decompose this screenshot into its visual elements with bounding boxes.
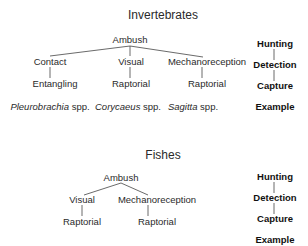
fishes-level-hunting: Hunting	[257, 172, 293, 182]
invertebrates-capture-raptorial-visual: Raptorial	[112, 79, 150, 89]
fishes-hunting-node: Ambush	[104, 173, 139, 183]
invertebrates-capture-raptorial-mechano: Raptorial	[188, 79, 226, 89]
invertebrates-level-capture: Capture	[257, 81, 293, 91]
invertebrates-detection-contact: Contact	[34, 57, 67, 67]
fishes-title: Fishes	[145, 149, 180, 161]
fishes-detection-visual: Visual	[69, 195, 95, 205]
invertebrates-level-example: Example	[255, 102, 294, 112]
invertebrates-hunting-node: Ambush	[113, 35, 148, 45]
fishes-level-detection: Detection	[253, 193, 296, 203]
fishes-capture-raptorial-visual: Raptorial	[63, 217, 101, 227]
fishes-level-example: Example	[255, 235, 294, 245]
fishes-capture-raptorial-mechano: Raptorial	[138, 217, 176, 227]
invertebrates-title: Invertebrates	[128, 9, 198, 21]
invertebrates-level-hunting: Hunting	[257, 39, 293, 49]
example-pleurobrachia: Pleurobrachia spp.	[10, 102, 89, 112]
example-corycaeus: Corycaeus spp.	[95, 102, 161, 112]
fishes-detection-mechanoreception: Mechanoreception	[118, 195, 196, 205]
invertebrates-level-detection: Detection	[253, 60, 296, 70]
connector-lines	[0, 0, 308, 246]
fishes-level-capture: Capture	[257, 214, 293, 224]
example-sagitta: Sagitta spp.	[168, 102, 218, 112]
invertebrates-detection-visual: Visual	[118, 57, 144, 67]
invertebrates-capture-entangling: Entangling	[33, 79, 78, 89]
invertebrates-detection-mechanoreception: Mechanoreception	[168, 57, 246, 67]
